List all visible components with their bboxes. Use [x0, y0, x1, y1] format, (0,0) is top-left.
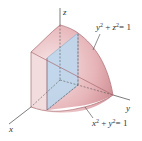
x-axis-label: x: [8, 124, 13, 134]
y-axis: [113, 95, 130, 100]
equation-yz-cylinder: y2 + z2= 1: [95, 22, 131, 32]
x-axis: [9, 107, 31, 124]
solid-front-face: [31, 52, 47, 110]
cylinder-intersection-diagram: z x y y2 + z2= 1 x2 + y2= 1: [0, 0, 142, 141]
y-axis-label: y: [125, 103, 130, 113]
z-axis-label: z: [62, 7, 67, 17]
equation-xy-cylinder: x2 + y2= 1: [91, 118, 127, 128]
